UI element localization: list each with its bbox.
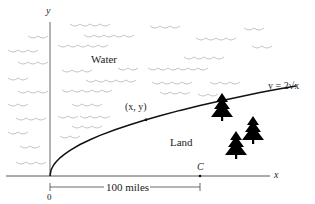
- diagram-graphic: [0, 0, 315, 204]
- tree-icon: [211, 93, 233, 121]
- y-axis-label: y: [46, 6, 50, 16]
- diagram: y x 0 Water Land (x, y) y = 2√x C 100 mi…: [0, 0, 315, 204]
- tree-icon: [225, 131, 247, 159]
- point-c-marker: [199, 175, 202, 178]
- x-axis-label: x: [274, 170, 278, 180]
- water-label: Water: [91, 54, 117, 65]
- point-c-label: C: [197, 162, 204, 172]
- point-xy-marker: [145, 118, 148, 121]
- land-label: Land: [170, 137, 193, 148]
- origin-label: 0: [47, 193, 52, 202]
- tree-icon: [242, 116, 264, 144]
- curve-equation-label: y = 2√x: [268, 81, 299, 91]
- distance-label: 100 miles: [106, 182, 149, 193]
- point-xy-label: (x, y): [125, 102, 147, 112]
